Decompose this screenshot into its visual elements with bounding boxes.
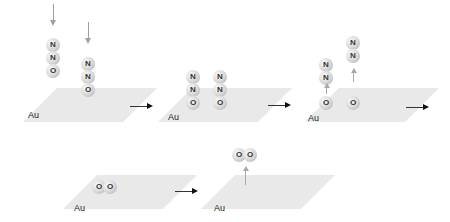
- atom-n: N: [213, 70, 227, 84]
- step-arrow-1: [130, 106, 150, 107]
- desorb-arrow: [353, 72, 354, 82]
- atom-n: N: [81, 70, 95, 84]
- atom-o: O: [346, 96, 360, 110]
- step-arrow-2: [268, 105, 288, 106]
- atom-o: O: [186, 96, 200, 110]
- atom-n: N: [319, 58, 333, 72]
- atom-n: N: [346, 36, 360, 50]
- atom-o: O: [46, 64, 60, 78]
- incoming-arrow-2: [88, 22, 89, 40]
- atom-n: N: [213, 83, 227, 97]
- atom-o: O: [319, 96, 333, 110]
- step-arrow-3: [406, 107, 426, 108]
- atom-n: N: [81, 57, 95, 71]
- au-label: Au: [308, 113, 319, 123]
- atom-o: O: [103, 180, 117, 194]
- atom-n: N: [46, 51, 60, 65]
- desorb-arrow: [245, 170, 246, 185]
- incoming-arrow-1: [53, 4, 54, 22]
- desorb-arrow: [326, 87, 327, 94]
- step-arrow-4: [175, 191, 195, 192]
- au-label: Au: [28, 110, 39, 120]
- atom-n: N: [186, 70, 200, 84]
- atom-n: N: [186, 83, 200, 97]
- atom-o: O: [243, 148, 257, 162]
- au-label: Au: [168, 112, 179, 122]
- atom-n: N: [346, 49, 360, 63]
- au-label: Au: [74, 203, 85, 213]
- atom-n: N: [46, 38, 60, 52]
- atom-o: O: [213, 96, 227, 110]
- atom-o: O: [81, 83, 95, 97]
- au-label: Au: [214, 203, 225, 213]
